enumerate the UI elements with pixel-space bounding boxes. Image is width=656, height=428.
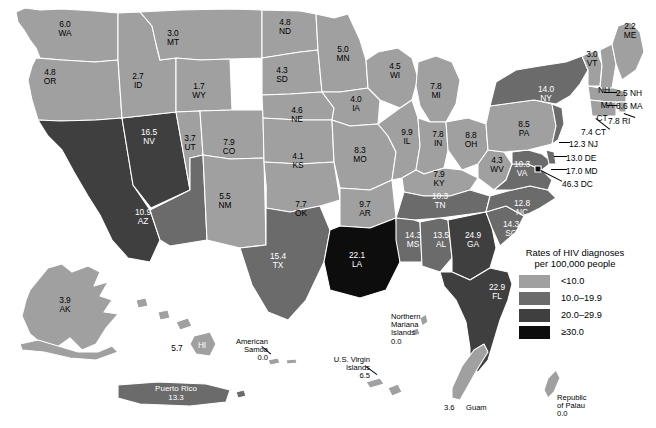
callout-ct: 7.4 CT	[581, 127, 606, 137]
leader-line-nh	[604, 92, 617, 93]
territory-shape-american-samoa[interactable]	[268, 358, 280, 365]
territory-shape-puerto-rico-islets[interactable]	[236, 390, 246, 398]
legend-row-3[interactable]: ≥30.0	[519, 326, 653, 339]
state-shape-or[interactable]	[28, 58, 122, 121]
state-shape-nm[interactable]	[203, 155, 266, 248]
state-shape-ny[interactable]	[490, 56, 588, 106]
state-shape-hi-maui[interactable]	[176, 318, 192, 330]
leader-line-nj	[559, 142, 570, 143]
state-shape-hi-kauai[interactable]	[136, 298, 148, 308]
legend-label-2: 20.0–29.9	[561, 310, 602, 320]
legend-label-0: <10.0	[561, 276, 584, 286]
state-shape-al[interactable]	[420, 218, 452, 272]
callout-md: 17.0 MD	[566, 166, 598, 176]
territory-shape-virgin-islands-2[interactable]	[388, 384, 402, 396]
state-shape-hi-bigisland[interactable]	[190, 332, 216, 356]
hiv-rate-choropleth-map: 6.0 WA 4.8 OR 3.0 MT 2.7 ID 1.7 WY 4.8 N…	[0, 0, 656, 428]
callout-ma: 8.6 MA	[616, 101, 643, 111]
territory-shape-american-samoa-2[interactable]	[286, 359, 297, 364]
state-shape-me[interactable]	[612, 22, 644, 80]
legend-title-line1: Rates of HIV diagnoses	[497, 247, 653, 258]
legend-row-0[interactable]: <10.0	[519, 275, 653, 288]
state-shape-wy[interactable]	[176, 58, 232, 112]
territory-label-puerto-rico: Puerto Rico 13.3	[130, 385, 222, 403]
state-shape-in[interactable]	[416, 118, 448, 174]
state-shape-co[interactable]	[200, 110, 264, 159]
state-shape-ks[interactable]	[263, 118, 334, 164]
leader-line-de	[554, 156, 567, 157]
territory-label-virgin-islands: U.S. Virgin Islands 6.5	[316, 356, 370, 381]
callout-ri: 7.8 RI	[608, 116, 630, 126]
territory-label-guam-name: Guam	[466, 404, 500, 412]
state-shape-ok[interactable]	[264, 162, 340, 212]
leader-line-ma	[607, 105, 617, 106]
state-shape-ak-aleutians[interactable]	[20, 340, 118, 360]
state-shape-pa[interactable]	[486, 100, 556, 152]
callout-nj: 12.3 NJ	[569, 139, 598, 149]
state-shape-mt[interactable]	[140, 9, 262, 60]
callout-de: 13.0 DE	[566, 153, 596, 163]
legend-title-line2: per 100,000 people	[497, 258, 653, 269]
legend: Rates of HIV diagnoses per 100,000 peopl…	[497, 247, 653, 343]
legend-swatch-1	[519, 292, 550, 305]
state-shape-hi-oahu[interactable]	[158, 310, 170, 320]
state-shape-wa[interactable]	[16, 8, 118, 62]
territory-label-guam-value: 3.6	[444, 404, 462, 412]
state-shape-ct[interactable]	[590, 100, 616, 116]
state-shape-ms[interactable]	[396, 218, 422, 262]
state-shape-ak[interactable]	[22, 264, 118, 350]
legend-row-2[interactable]: 20.0–29.9	[519, 309, 653, 322]
callout-nh: 2.5 NH	[616, 88, 642, 98]
state-shape-ne[interactable]	[262, 92, 334, 120]
legend-swatch-3	[519, 326, 550, 339]
legend-swatch-2	[519, 309, 550, 322]
territory-label-mariana-islands: Northern Mariana Islands 0.0	[391, 313, 445, 346]
legend-title: Rates of HIV diagnoses per 100,000 peopl…	[497, 247, 653, 270]
state-shape-sd[interactable]	[262, 50, 322, 95]
state-shape-mi[interactable]	[416, 56, 460, 122]
legend-label-1: 10.0–19.9	[561, 293, 602, 303]
legend-row-1[interactable]: 10.0–19.9	[519, 292, 653, 305]
legend-swatch-0	[519, 275, 550, 288]
state-shape-mn[interactable]	[316, 14, 368, 92]
legend-label-3: ≥30.0	[561, 327, 584, 337]
callout-dc: 46.3 DC	[562, 179, 593, 189]
state-shape-la[interactable]	[324, 218, 400, 298]
territory-label-palau: Republic of Palau 0.0	[557, 394, 609, 419]
territory-label-american-samoa: American Samoa 0.0	[222, 338, 268, 363]
leader-line-md	[551, 169, 567, 170]
